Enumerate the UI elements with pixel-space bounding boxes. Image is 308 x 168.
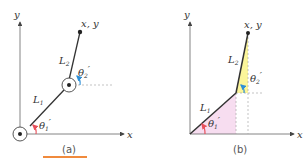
angle2-label: θ2′ bbox=[250, 70, 263, 85]
caption-b: (b) bbox=[233, 144, 247, 155]
link2-label: L2 bbox=[58, 55, 70, 67]
link1-label: L1 bbox=[32, 94, 43, 106]
angle1-label: θ1′ bbox=[39, 117, 52, 132]
angle1-arrow bbox=[33, 125, 36, 134]
panel-a: y x x, y L2 L1 θ1′ θ2′ (a) bbox=[13, 9, 133, 158]
x-axis-label: x bbox=[297, 129, 303, 140]
y-axis-label: y bbox=[13, 9, 20, 20]
endpoint-label: x, y bbox=[244, 19, 262, 30]
caption-a: (a) bbox=[62, 144, 76, 155]
y-axis-label: y bbox=[183, 9, 190, 20]
angle2-label: θ2′ bbox=[78, 64, 91, 79]
two-link-arm-diagram: y x x, y L2 L1 θ1′ θ2′ (a) y x bbox=[0, 0, 308, 168]
end-effector bbox=[246, 31, 250, 35]
link1-label: L1 bbox=[199, 102, 210, 114]
panel-b: y x x, y L2 L1 θ1′ θ2′ (b) bbox=[183, 9, 303, 155]
link2-label: L2 bbox=[227, 54, 239, 66]
x-axis-label: x bbox=[127, 129, 133, 140]
endpoint-label: x, y bbox=[81, 18, 99, 29]
end-effector bbox=[78, 30, 82, 34]
accent-bar bbox=[43, 156, 87, 158]
